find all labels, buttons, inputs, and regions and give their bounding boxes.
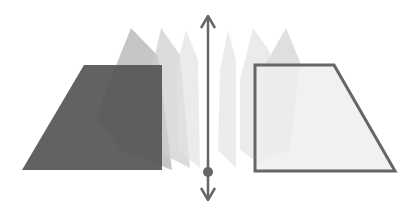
diagram-canvas <box>0 0 419 207</box>
right-page <box>255 65 395 171</box>
rotation-axis <box>201 16 215 200</box>
intermediate-page-left-3 <box>176 30 200 168</box>
page-flip-diagram <box>0 0 419 207</box>
intermediate-page-right-1 <box>218 30 236 168</box>
left-page <box>22 65 162 170</box>
pivot-point <box>203 167 213 177</box>
